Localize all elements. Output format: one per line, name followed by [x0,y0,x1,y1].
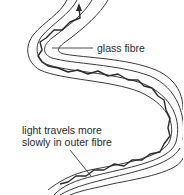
slow-light-label-line1: light travels more [22,124,112,136]
fibre-drawing [0,0,183,195]
core-edge-a [37,0,178,195]
optical-fibre-diagram: glass fibre light travels more slowly in… [0,0,183,195]
core-edge-b [45,0,184,140]
glass-fibre-label: glass fibre [97,42,145,54]
slow-light-label-line2: slowly in outer fibre [22,136,112,148]
outer-cladding-edge-b [58,0,183,110]
arrow-head-icon [76,3,82,11]
light-ray [38,6,170,184]
slow-light-label: light travels more slowly in outer fibre [22,124,112,148]
outer-cladding-edge-c [60,148,180,195]
